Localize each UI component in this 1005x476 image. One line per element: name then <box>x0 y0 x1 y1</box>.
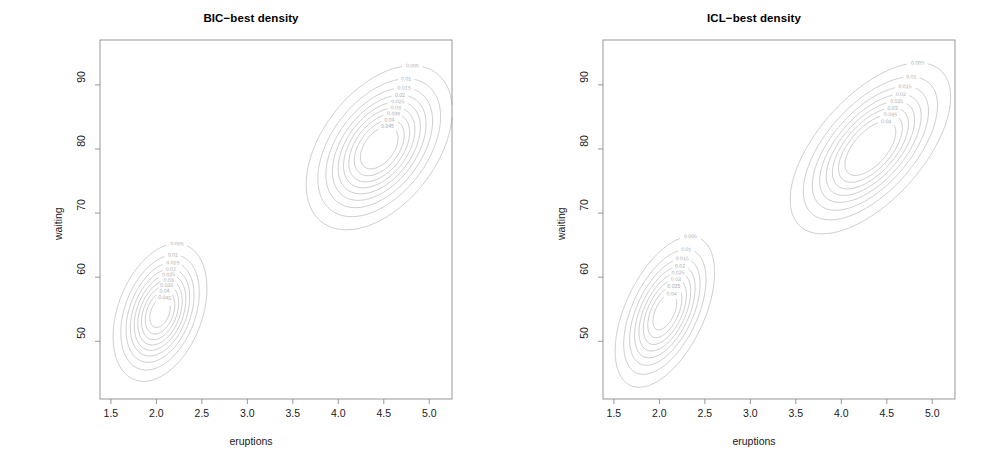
contour-label: 0.04 <box>384 116 394 122</box>
contour-label: 0.02 <box>896 91 906 97</box>
contour-label: 0.02 <box>395 92 405 98</box>
x-tick-label: 2.5 <box>698 407 713 419</box>
y-tick-label: 50 <box>578 326 590 340</box>
contour-label: 0.03 <box>671 276 681 282</box>
y-tick-label: 80 <box>75 134 87 148</box>
contour-label: 0.015 <box>676 255 689 261</box>
x-tick-label: 4.5 <box>879 407 894 419</box>
panel-icl-best-density: ICL−best density 0.0050.0050.010.010.015… <box>503 0 1005 476</box>
contour-label: 0.01 <box>401 75 411 81</box>
x-tick-label: 3.0 <box>240 407 255 419</box>
x-tick-label: 4.0 <box>834 407 849 419</box>
y-tick-label: 50 <box>75 326 87 340</box>
contour-label: 0.015 <box>398 84 411 90</box>
panel-bic-best-density: BIC−best density 0.0050.0050.010.010.015… <box>0 0 502 476</box>
x-tick-label: 1.5 <box>607 407 622 419</box>
x-tick-label: 2.0 <box>149 407 164 419</box>
x-tick-label: 1.5 <box>104 407 119 419</box>
x-tick-label: 4.0 <box>331 407 346 419</box>
x-tick-label: 5.0 <box>422 407 437 419</box>
contour-label: 0.03 <box>887 105 897 111</box>
x-axis-title-bic: eruptions <box>0 435 502 447</box>
contour-label: 0.015 <box>166 259 179 265</box>
contour-line <box>630 261 700 365</box>
contour-label: 0.025 <box>671 269 684 275</box>
x-tick-label: 5.0 <box>925 407 940 419</box>
contour-label: 0.01 <box>906 74 916 80</box>
y-tick-label: 70 <box>75 198 87 212</box>
x-tick-label: 3.0 <box>743 407 758 419</box>
x-tick-label: 3.5 <box>789 407 804 419</box>
contour-label: 0.04 <box>881 118 892 125</box>
y-tick-label: 60 <box>578 262 590 276</box>
x-tick-label: 2.0 <box>652 407 667 419</box>
contour-label: 0.01 <box>681 246 691 252</box>
contour-line <box>790 64 950 234</box>
x-axis-title-icl: eruptions <box>503 435 1005 447</box>
contour-line <box>318 79 441 216</box>
y-axis-title-icl: waiting <box>555 207 567 240</box>
contour-line <box>635 268 696 358</box>
contour-label: 0.01 <box>168 251 178 257</box>
y-tick-label: 70 <box>578 198 590 212</box>
contour-label: 0.02 <box>675 263 685 269</box>
contour-label: 0.005 <box>684 233 697 239</box>
contour-label: 0.035 <box>884 111 897 118</box>
contour-label: 0.015 <box>899 83 912 89</box>
contour-label: 0.005 <box>911 60 924 66</box>
y-tick-label: 90 <box>75 70 87 84</box>
contour-label: 0.005 <box>406 62 419 68</box>
contour-label: 0.035 <box>667 283 680 289</box>
y-tick-label: 80 <box>578 134 590 148</box>
x-tick-label: 2.5 <box>195 407 210 419</box>
contour-line <box>648 289 682 337</box>
contour-label: 0.025 <box>890 98 903 104</box>
contour-line <box>360 129 398 169</box>
figure-canvas: BIC−best density 0.0050.0050.010.010.015… <box>0 0 1005 476</box>
x-tick-label: 4.5 <box>376 407 391 419</box>
y-axis-title-bic: waiting <box>52 207 64 240</box>
y-tick-label: 90 <box>578 70 590 84</box>
y-tick-label: 60 <box>75 262 87 276</box>
contour-line <box>306 67 452 230</box>
contour-line <box>150 301 170 327</box>
contour-label: 0.005 <box>171 240 184 246</box>
contour-label: 0.04 <box>667 290 677 296</box>
contour-line <box>624 251 706 374</box>
contour-label: 0.045 <box>158 293 172 301</box>
contour-label: 0.045 <box>381 123 394 129</box>
x-tick-label: 3.5 <box>286 407 301 419</box>
